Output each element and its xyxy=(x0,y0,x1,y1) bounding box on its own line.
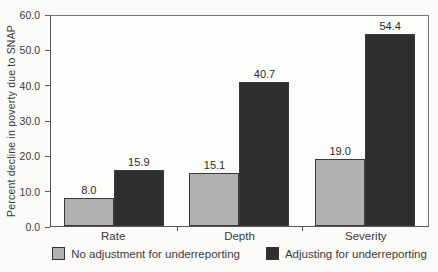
bar-unit: 8.0 xyxy=(64,184,114,226)
bar-unit: 15.1 xyxy=(189,159,239,226)
bar-group-depth: 15.1 40.7 xyxy=(177,16,303,226)
plot-area: 8.0 15.9 15.1 40.7 19.0 5 xyxy=(50,15,429,227)
value-label: 15.1 xyxy=(204,159,225,171)
bar-unit: 40.7 xyxy=(239,68,289,226)
y-axis: 0.0 10.0 20.0 30.0 40.0 50.0 60.0 xyxy=(0,15,50,227)
legend-item-adjusting: Adjusting for underreporting xyxy=(266,247,427,260)
legend-label: No adjustment for underreporting xyxy=(71,248,240,260)
category-label-rate: Rate xyxy=(50,230,176,242)
y-tick-label: 60.0 xyxy=(20,9,40,21)
y-tick-label: 30.0 xyxy=(20,115,40,127)
value-label: 8.0 xyxy=(81,184,96,196)
bar-chart: Percent decline in poverty due to SNAP 0… xyxy=(0,0,438,272)
value-label: 15.9 xyxy=(128,156,149,168)
x-axis-labels: Rate Depth Severity xyxy=(50,230,429,242)
value-label: 19.0 xyxy=(329,145,350,157)
bar-severity-no-adjustment xyxy=(315,159,365,226)
bar-severity-adjusting xyxy=(365,34,415,226)
bar-unit: 54.4 xyxy=(365,20,415,226)
category-label-depth: Depth xyxy=(176,230,302,242)
legend-label: Adjusting for underreporting xyxy=(285,248,427,260)
y-tick-label: 40.0 xyxy=(20,80,40,92)
bar-rate-no-adjustment xyxy=(64,198,114,226)
legend-swatch-light xyxy=(52,247,65,260)
legend-item-no-adjustment: No adjustment for underreporting xyxy=(52,247,240,260)
bar-unit: 15.9 xyxy=(114,156,164,226)
y-tick-label: 20.0 xyxy=(20,150,40,162)
y-tick-label: 0.0 xyxy=(25,221,40,233)
legend: No adjustment for underreporting Adjusti… xyxy=(50,247,429,260)
bar-depth-no-adjustment xyxy=(189,173,239,226)
y-tick-label: 50.0 xyxy=(20,44,40,56)
y-tick-label: 10.0 xyxy=(20,186,40,198)
value-label: 54.4 xyxy=(379,20,400,32)
bar-group-rate: 8.0 15.9 xyxy=(51,16,177,226)
bar-group-severity: 19.0 54.4 xyxy=(302,16,428,226)
bar-unit: 19.0 xyxy=(315,145,365,226)
bar-rate-adjusting xyxy=(114,170,164,226)
legend-swatch-dark xyxy=(266,247,279,260)
bar-depth-adjusting xyxy=(239,82,289,226)
category-label-severity: Severity xyxy=(303,230,429,242)
value-label: 40.7 xyxy=(254,68,275,80)
